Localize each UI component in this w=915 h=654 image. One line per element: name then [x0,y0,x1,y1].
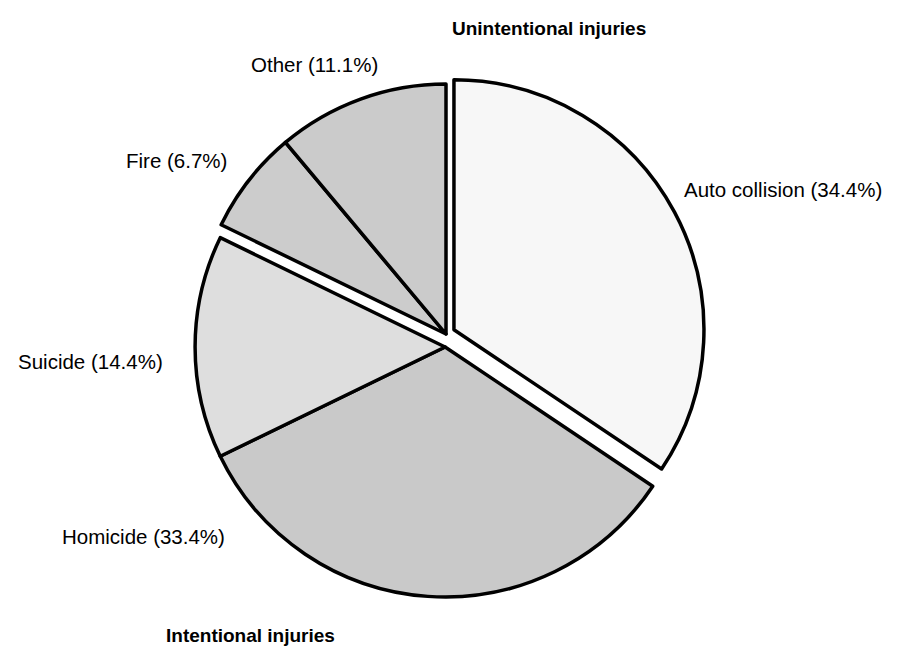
pie-chart-svg [0,0,915,654]
pie-slices [195,80,704,597]
group-label-intentional: Intentional injuries [166,626,335,645]
slice-label-fire: Fire (6.7%) [126,151,227,172]
slice-label-homicide: Homicide (33.4%) [62,527,225,548]
slice-label-suicide: Suicide (14.4%) [18,352,163,373]
slice-label-other: Other (11.1%) [251,55,378,76]
group-label-unintentional: Unintentional injuries [452,19,646,38]
pie-chart: Unintentional injuries Intentional injur… [0,0,915,654]
slice-label-auto-collision: Auto collision (34.4%) [684,180,882,201]
